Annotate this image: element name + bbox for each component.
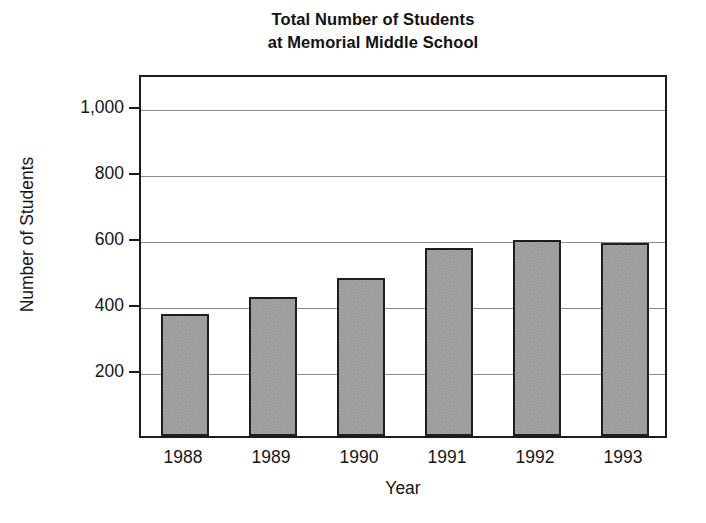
y-tick-mark-600 [129,239,139,241]
plot-area [139,75,667,438]
y-tick-label-wrap-400: 400 [42,295,124,315]
chart-title-line-1: Total Number of Students [203,8,543,31]
bars-layer [141,77,665,436]
y-tick-label-wrap-200: 200 [42,361,124,381]
y-tick-label-wrap-600: 600 [42,229,124,249]
y-tick-label-800: 800 [48,163,124,184]
y-tick-mark-200 [129,371,139,373]
bar-1993 [601,243,649,436]
bar-1989 [249,297,297,436]
x-tick-label-1992: 1992 [495,447,575,468]
bar-1990 [337,278,385,436]
y-tick-label-1000: 1,000 [48,97,124,118]
y-tick-mark-1000 [129,107,139,109]
bar-chart: Total Number of Students at Memorial Mid… [0,0,706,523]
y-tick-mark-800 [129,173,139,175]
chart-title: Total Number of Students at Memorial Mid… [203,8,543,54]
y-tick-label-600: 600 [48,229,124,250]
y-tick-mark-400 [129,305,139,307]
x-tick-label-1990: 1990 [319,447,399,468]
y-tick-label-wrap-1000: 1,000 [42,97,124,117]
y-tick-label-200: 200 [48,361,124,382]
bar-1991 [425,248,473,436]
bar-1992 [513,240,561,436]
x-tick-label-1988: 1988 [143,447,223,468]
x-axis-title: Year [139,478,667,499]
y-tick-label-wrap-800: 800 [42,163,124,183]
x-tick-label-1989: 1989 [231,447,311,468]
y-axis-title: Number of Students [17,140,38,330]
bar-1988 [161,314,209,436]
x-tick-label-1993: 1993 [583,447,663,468]
x-tick-label-1991: 1991 [407,447,487,468]
y-tick-label-400: 400 [48,295,124,316]
chart-title-line-2: at Memorial Middle School [203,31,543,54]
